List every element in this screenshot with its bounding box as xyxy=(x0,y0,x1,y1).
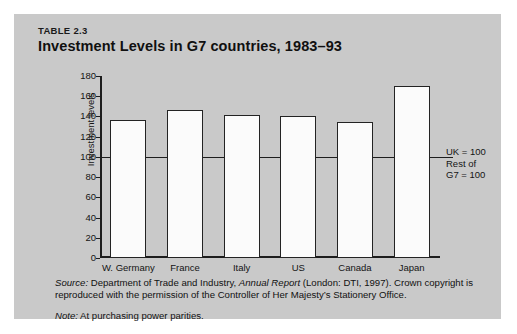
bar xyxy=(280,116,316,258)
x-axis-label: Canada xyxy=(338,262,371,273)
y-tick-mark xyxy=(96,96,100,97)
y-tick-mark xyxy=(96,218,100,219)
note-text: At purchasing power parities. xyxy=(78,310,204,321)
source-label: Source: xyxy=(55,277,88,288)
y-tick-mark xyxy=(96,76,100,77)
bar xyxy=(167,110,203,258)
y-tick-label: 20 xyxy=(56,233,96,243)
x-axis-label: Italy xyxy=(233,262,250,273)
bar xyxy=(337,122,373,259)
x-axis-label: Japan xyxy=(399,262,425,273)
y-tick-label: 120 xyxy=(56,132,96,142)
y-tick-label: 100 xyxy=(56,152,96,162)
figure-note: Note: At purchasing power parities. xyxy=(55,310,485,322)
y-axis-line xyxy=(100,76,102,258)
annotation-line-2: Rest of xyxy=(446,158,486,170)
bar xyxy=(224,115,260,258)
y-tick-mark xyxy=(96,116,100,117)
y-tick-label: 40 xyxy=(56,213,96,223)
x-axis-label: W. Germany xyxy=(102,262,155,273)
source-work-title: Annual Report xyxy=(239,277,300,288)
figure-panel: TABLE 2.3 Investment Levels in G7 countr… xyxy=(14,14,501,319)
y-tick-mark xyxy=(96,137,100,138)
table-number: TABLE 2.3 xyxy=(38,25,88,36)
y-tick-label: 80 xyxy=(56,172,96,182)
x-axis-label: US xyxy=(292,262,305,273)
page-title: Investment Levels in G7 countries, 1983–… xyxy=(38,38,342,54)
plot-area: 020406080100120140160180 W. GermanyFranc… xyxy=(100,76,440,258)
y-tick-label: 160 xyxy=(56,91,96,101)
source-note: Source: Department of Trade and Industry… xyxy=(55,277,485,302)
y-tick-label: 140 xyxy=(56,112,96,122)
reference-annotation: UK = 100 Rest of G7 = 100 xyxy=(446,146,486,181)
annotation-line-3: G7 = 100 xyxy=(446,169,486,181)
y-tick-mark xyxy=(96,258,100,259)
source-text-1: Department of Trade and Industry, xyxy=(88,277,239,288)
note-label: Note: xyxy=(55,310,78,321)
y-tick-label: 0 xyxy=(56,253,96,263)
y-tick-mark xyxy=(96,177,100,178)
x-axis-label: France xyxy=(170,262,200,273)
y-tick-label: 60 xyxy=(56,193,96,203)
y-tick-mark xyxy=(96,238,100,239)
bar xyxy=(110,120,146,258)
annotation-line-1: UK = 100 xyxy=(446,146,486,158)
x-axis-line xyxy=(100,256,440,258)
y-tick-mark xyxy=(96,197,100,198)
bar xyxy=(394,86,430,258)
y-tick-label: 180 xyxy=(56,71,96,81)
bar-chart: Investment levels 0204060801001201401601… xyxy=(88,68,444,264)
